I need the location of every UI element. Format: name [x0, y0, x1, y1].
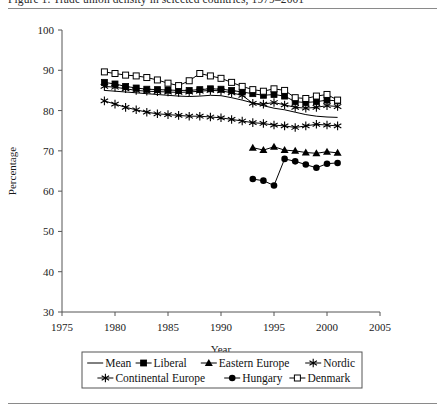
- data-point: [282, 87, 288, 93]
- chart-canvas: 3040506070809010019751980198519901995200…: [0, 0, 445, 400]
- data-point: [281, 156, 288, 163]
- data-point: [176, 83, 182, 89]
- data-point: [313, 93, 319, 99]
- data-point: [165, 80, 171, 86]
- data-point: [132, 105, 139, 114]
- data-point: [282, 93, 288, 99]
- data-point: [270, 143, 278, 150]
- data-point: [218, 75, 224, 81]
- x-tick-label: 2005: [369, 321, 392, 333]
- data-point: [313, 164, 320, 171]
- legend-marker-filled-circle: [229, 375, 236, 382]
- data-point: [123, 72, 129, 78]
- x-tick-label: 2000: [316, 321, 339, 333]
- x-tick-label: 1990: [210, 321, 233, 333]
- y-tick-label: 70: [43, 145, 55, 157]
- y-tick-label: 30: [43, 306, 55, 318]
- data-point: [324, 160, 331, 167]
- data-point: [154, 77, 160, 83]
- x-tick-label: 1985: [157, 321, 180, 333]
- data-point: [324, 91, 330, 97]
- data-point: [101, 97, 108, 106]
- data-point: [260, 177, 267, 184]
- legend-marker-open-square: [294, 375, 300, 381]
- data-point: [111, 100, 118, 109]
- legend-label: Liberal: [154, 357, 187, 369]
- data-point: [250, 87, 256, 93]
- legend-layer: MeanLiberalEastern EuropeNordicContinent…: [82, 352, 362, 388]
- data-point: [335, 97, 341, 103]
- legend-label: Denmark: [307, 372, 350, 384]
- legend-label: Nordic: [323, 357, 355, 369]
- data-point: [112, 71, 118, 77]
- data-point: [271, 182, 278, 189]
- data-point: [271, 86, 277, 92]
- y-tick-label: 50: [43, 225, 55, 237]
- data-point: [229, 79, 235, 85]
- series-eastern-europe: [249, 143, 342, 156]
- y-tick-label: 80: [43, 105, 55, 117]
- data-point: [186, 78, 192, 84]
- x-tick-label: 1975: [51, 321, 74, 333]
- data-point: [249, 144, 257, 151]
- x-tick-label: 1980: [104, 321, 127, 333]
- y-axis-title: Percentage: [6, 147, 18, 195]
- y-tick-label: 100: [38, 24, 55, 36]
- y-tick-label: 60: [43, 185, 55, 197]
- series-layer: [101, 69, 342, 189]
- data-point: [207, 73, 213, 79]
- data-point: [292, 158, 299, 165]
- data-point: [334, 160, 341, 167]
- series-hungary: [250, 156, 341, 189]
- data-point: [303, 161, 310, 168]
- data-point: [323, 148, 331, 155]
- data-point: [260, 88, 266, 94]
- data-point: [133, 73, 139, 79]
- data-point: [239, 83, 245, 89]
- figure-container: Figure 1. Trade union density in selecte…: [0, 0, 445, 413]
- data-point: [303, 95, 309, 101]
- data-point: [197, 71, 203, 77]
- x-tick-label: 1995: [263, 321, 286, 333]
- data-point: [250, 176, 257, 183]
- data-point: [144, 75, 150, 81]
- legend-label: Eastern Europe: [219, 357, 290, 370]
- legend-label: Mean: [105, 357, 131, 369]
- y-tick-label: 40: [43, 266, 55, 278]
- legend-label: Continental Europe: [115, 372, 205, 385]
- data-point: [101, 69, 107, 75]
- legend-label: Hungary: [242, 372, 282, 385]
- legend-item-nordic[interactable]: Nordic: [305, 357, 355, 369]
- data-point: [281, 101, 288, 110]
- data-point: [271, 91, 277, 97]
- y-tick-label: 90: [43, 64, 55, 76]
- bottom-rule: [8, 403, 437, 404]
- data-point: [122, 103, 129, 112]
- legend-marker-filled-square: [141, 360, 147, 366]
- data-point: [292, 95, 298, 101]
